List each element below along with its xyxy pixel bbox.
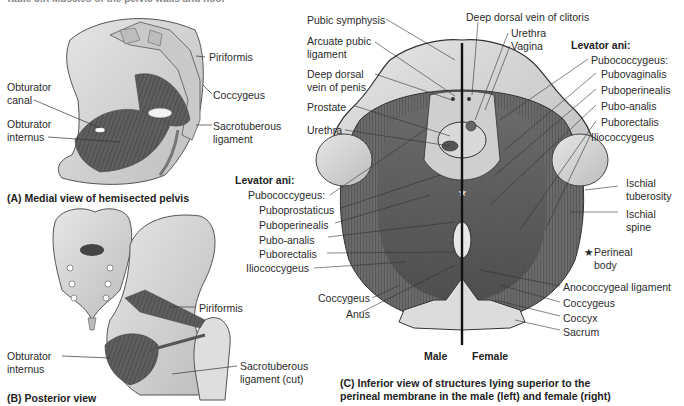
label-c-coccygeus-male: Coccygeus <box>318 292 370 304</box>
label-c-deep-dorsal-vein-penis-2: vein of penis <box>307 81 366 93</box>
label-b-obturator-internus: Obturator <box>7 350 51 362</box>
label-c-anococcygeal-ligament: Anococcygeal ligament <box>563 281 671 293</box>
label-c-levator-ani-female: Levator ani: <box>571 39 631 51</box>
label-c-ischial-spine-2: spine <box>626 221 651 233</box>
label-c-pubo-analis-male: Pubo-analis <box>259 234 314 246</box>
label-c-puborectalis-female: Puborectalis <box>601 116 659 128</box>
label-male: Male <box>424 350 447 362</box>
label-c-ischial-tuberosity-2: tuberosity <box>626 190 672 202</box>
caption-panel-b: (B) Posterior view <box>7 392 96 404</box>
label-c-perineal-body-2: body <box>594 259 617 271</box>
label-c-pubic-symphysis: Pubic symphysis <box>307 14 385 26</box>
label-c-puboperinealis-male: Puboperinealis <box>259 219 328 231</box>
label-c-deep-dorsal-vein-penis: Deep dorsal <box>307 68 364 80</box>
label-c-anus: Anus <box>346 308 370 320</box>
label-c-ischial-tuberosity: Ischial <box>626 177 656 189</box>
label-c-pubococcygeus-female: Pubococcygeus: <box>591 54 668 66</box>
label-c-urethra-male: Urethra <box>307 124 342 136</box>
label-c-prostate: Prostate <box>307 101 346 113</box>
label-c-puboprostaticus: Puboprostaticus <box>259 204 334 216</box>
caption-panel-c: (C) Inferior view of structures lying su… <box>340 377 590 389</box>
label-a-piriformis: Piriformis <box>209 51 253 63</box>
caption-panel-c-2: perineal membrane in the male (left) and… <box>340 390 611 402</box>
label-c-vagina: Vagina <box>511 40 543 52</box>
label-c-perineal-body: Perineal <box>594 246 633 258</box>
label-b-obturator-internus-2: internus <box>7 363 44 375</box>
label-c-coccyx: Coccyx <box>563 312 597 324</box>
label-female: Female <box>472 350 508 362</box>
label-c-iliococcygeus-female: Iliococcygeus <box>591 131 654 143</box>
label-c-pubo-analis-female: Pubo-analis <box>601 100 656 112</box>
label-c-pubococcygeus-male: Pubococcygeus: <box>248 189 325 201</box>
label-c-arcuate-ligament-2: ligament <box>307 48 347 60</box>
label-c-coccygeus-female: Coccygeus <box>563 297 615 309</box>
label-a-obturator-internus-2: internus <box>7 131 44 143</box>
panel-a-illustration <box>34 19 212 185</box>
label-c-puboperinealis-female: Puboperinealis <box>601 84 670 96</box>
label-a-obturator-canal-2: canal <box>7 94 32 106</box>
label-c-iliococcygeus-male: Iliococcygeus <box>246 262 309 274</box>
label-a-sacrotuberous-2: ligament <box>213 133 253 145</box>
label-a-obturator-canal: Obturator <box>7 81 51 93</box>
label-a-sacrotuberous: Sacrotuberous <box>213 120 281 132</box>
label-c-urethra-female: Urethra <box>511 27 546 39</box>
label-c-ischial-spine: Ischial <box>626 208 656 220</box>
label-c-pubovaginalis: Pubovaginalis <box>601 68 666 80</box>
label-b-sacrotuberous-2: ligament (cut) <box>240 373 304 385</box>
caption-panel-a: (A) Medial view of hemisected pelvis <box>7 192 189 204</box>
label-c-sacrum: Sacrum <box>563 326 599 338</box>
label-c-arcuate-ligament: Arcuate pubic <box>307 35 371 47</box>
label-a-obturator-internus: Obturator <box>7 118 51 130</box>
label-b-piriformis: Piriformis <box>199 302 243 314</box>
star-icon: ★ <box>584 246 593 258</box>
label-c-levator-ani-male: Levator ani: <box>235 174 295 186</box>
label-c-deep-dorsal-vein-clitoris: Deep dorsal vein of clitoris <box>466 11 589 23</box>
label-a-coccygeus: Coccygeus <box>213 89 265 101</box>
label-c-puborectalis-male: Puborectalis <box>259 248 317 260</box>
label-b-sacrotuberous: Sacrotuberous <box>240 360 308 372</box>
